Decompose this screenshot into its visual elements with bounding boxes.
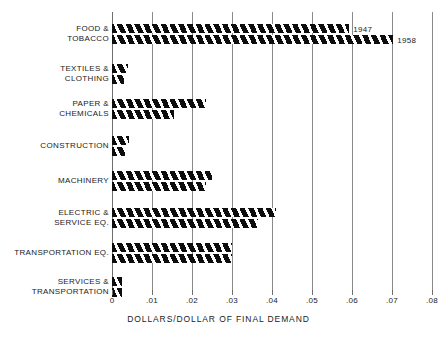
bar-1947 [112, 277, 122, 286]
category-label-line: CHEMICALS [59, 109, 109, 119]
bar-1958 [112, 75, 124, 84]
x-tick [112, 290, 113, 295]
bar-1958 [112, 35, 393, 44]
x-tick [152, 290, 153, 295]
bar-1958 [112, 182, 206, 191]
x-axis-title: DOLLARS/DOLLAR OF FINAL DEMAND [0, 314, 437, 324]
gridline-.03 [232, 12, 233, 290]
x-tick-label: .08 [426, 296, 438, 305]
x-tick [352, 290, 353, 295]
bar-1958 [112, 254, 232, 263]
x-tick-label: .06 [346, 296, 358, 305]
x-tick-label: .07 [386, 296, 398, 305]
gridline-.08 [432, 12, 433, 290]
category-label: PAPER &CHEMICALS [59, 99, 109, 118]
bar-1947 [112, 64, 128, 73]
bar-1958 [112, 147, 125, 156]
bar-1958 [112, 219, 258, 228]
x-tick-label: .02 [186, 296, 198, 305]
bar-1947 [112, 136, 129, 145]
category-label-line: ELECTRIC & [54, 208, 109, 218]
category-label: CONSTRUCTION [40, 141, 109, 151]
category-label: TRANSPORTATION EQ. [14, 248, 109, 258]
category-label-line: PAPER & [59, 99, 109, 109]
bar-1947 [112, 99, 206, 108]
bar-1947 [112, 24, 349, 33]
category-label: FOOD &TOBACCO [67, 24, 109, 43]
gridline-.06 [352, 12, 353, 290]
category-label-line: TEXTILES & [60, 64, 109, 74]
x-tick-label: .03 [226, 296, 238, 305]
bar-1947 [112, 208, 276, 217]
x-tick-label: .05 [306, 296, 318, 305]
gridline-.07 [392, 12, 393, 290]
category-label-line: TRANSPORTATION [32, 287, 109, 297]
bar-1958 [112, 110, 174, 119]
category-label-line: TOBACCO [67, 34, 109, 44]
series-annotation-1947: 1947 [353, 25, 372, 34]
category-label: SERVICES &TRANSPORTATION [32, 277, 109, 296]
x-tick-label: 0 [110, 296, 115, 305]
plot-area: FOOD &TOBACCOTEXTILES &CLOTHINGPAPER &CH… [112, 12, 432, 290]
series-annotation-1958: 1958 [397, 36, 416, 45]
category-label-line: CONSTRUCTION [40, 141, 109, 151]
x-tick [312, 290, 313, 295]
category-label: TEXTILES &CLOTHING [60, 64, 109, 83]
bar-1947 [112, 243, 232, 252]
category-label: MACHINERY [58, 176, 109, 186]
category-label-line: MACHINERY [58, 176, 109, 186]
category-label-line: CLOTHING [60, 74, 109, 84]
x-tick-label: .04 [266, 296, 278, 305]
x-tick [392, 290, 393, 295]
category-label: ELECTRIC &SERVICE EQ. [54, 208, 109, 227]
category-label-line: SERVICE EQ. [54, 218, 109, 228]
category-label-line: FOOD & [67, 24, 109, 34]
x-tick [232, 290, 233, 295]
category-label-line: TRANSPORTATION EQ. [14, 248, 109, 258]
x-tick [432, 290, 433, 295]
x-tick [272, 290, 273, 295]
bar-1947 [112, 171, 212, 180]
category-label-line: SERVICES & [32, 277, 109, 287]
gridline-.05 [312, 12, 313, 290]
x-tick [192, 290, 193, 295]
gridline-.04 [272, 12, 273, 290]
x-tick-label: .01 [146, 296, 158, 305]
